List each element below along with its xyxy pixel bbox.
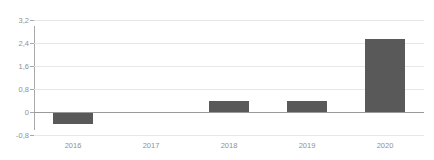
x-axis-label-2020: 2020 [377,141,394,150]
x-axis-label-2016: 2016 [65,141,82,150]
bar-2020 [365,39,405,112]
gridline-3_2 [34,20,424,21]
y-axis-tick-label-0: 0 [0,108,29,117]
y-axis-tick-label-3_2: 3,2 [0,16,29,25]
bar-2019 [287,101,327,113]
gridline-neg0_8 [34,135,424,136]
y-axis-tick-label-0_8: 0,8 [0,85,29,94]
plot-area [34,20,424,135]
y-axis-tick-label-2_4: 2,4 [0,39,29,48]
bar-chart: 3,2 2,4 1,6 0,8 0 -0,8 2016 2017 2018 20… [0,0,434,160]
x-axis-label-2019: 2019 [299,141,316,150]
zero-line [34,112,424,113]
y-axis-tick-label-1_6: 1,6 [0,62,29,71]
x-axis-label-2018: 2018 [221,141,238,150]
y-axis-tick-label-neg0_8: -0,8 [0,131,29,140]
bar-2016 [53,112,93,124]
x-axis-label-2017: 2017 [143,141,160,150]
bar-2018 [209,101,249,113]
